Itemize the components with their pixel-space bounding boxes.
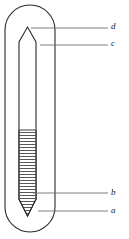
figure-container: d c b a xyxy=(0,0,129,239)
label-d: d xyxy=(111,22,116,31)
label-a: a xyxy=(111,206,116,215)
label-b: b xyxy=(111,188,116,197)
tube-diagram-svg xyxy=(0,0,129,239)
label-c: c xyxy=(111,39,115,48)
